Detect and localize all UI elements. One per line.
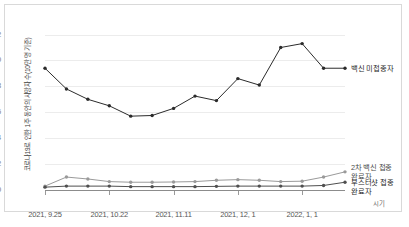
- data-point: [86, 184, 89, 187]
- data-point: [300, 184, 303, 187]
- data-point: [279, 180, 282, 183]
- x-axis-tick-label: 2021, 9.25: [28, 211, 61, 219]
- data-point: [43, 185, 46, 188]
- y-axis-tick-label: 10: [0, 56, 1, 64]
- data-point: [322, 67, 325, 70]
- y-axis-tick-label: 6: [0, 108, 1, 116]
- data-point: [150, 185, 153, 188]
- data-point: [43, 67, 46, 70]
- series-line: [45, 44, 345, 117]
- annotation-booster: 부스터샷 접종 완료자: [351, 178, 393, 196]
- x-axis-tick-mark: [174, 191, 175, 195]
- data-point: [236, 178, 239, 181]
- data-point: [65, 184, 68, 187]
- y-axis-tick-label: 0: [0, 186, 1, 194]
- y-axis-tick-label: 12: [0, 31, 1, 39]
- x-axis-tick-label: 2021, 12, 1: [220, 211, 255, 219]
- data-point: [65, 87, 68, 90]
- annotation-second-dose-line1: 2차 백신 접종: [351, 163, 392, 172]
- data-point: [172, 185, 175, 188]
- y-axis-title: 코로나19로 인한 1주 동안의 사망자 수(10만 명 기준): [22, 19, 33, 190]
- data-point: [236, 184, 239, 187]
- data-point: [65, 175, 68, 178]
- y-axis-tick-label: 4: [0, 134, 1, 142]
- data-point: [108, 180, 111, 183]
- data-point: [86, 98, 89, 101]
- x-axis-tick-mark: [109, 191, 110, 195]
- x-axis-line: [45, 190, 345, 191]
- y-axis-tick-label: 8: [0, 82, 1, 90]
- data-point: [150, 114, 153, 117]
- data-point: [279, 184, 282, 187]
- x-axis-tick-label: 2022, 1, 1: [286, 211, 317, 219]
- data-point: [236, 77, 239, 80]
- data-point: [300, 42, 303, 45]
- data-point: [172, 107, 175, 110]
- data-point: [193, 94, 196, 97]
- data-point: [129, 185, 132, 188]
- data-point: [129, 114, 132, 117]
- series-lines: [45, 19, 345, 190]
- data-point: [322, 184, 325, 187]
- x-axis-tick-mark: [238, 191, 239, 195]
- data-point: [215, 185, 218, 188]
- data-point: [108, 104, 111, 107]
- data-point: [343, 181, 346, 184]
- y-axis-tick-label: 2: [0, 160, 1, 168]
- data-point: [193, 180, 196, 183]
- chart-screenshot: 코로나19로 인한 1주 동안의 사망자 수(10만 명 기준) 시기 0246…: [0, 0, 409, 227]
- x-axis-tick-label: 2021, 11.11: [155, 211, 191, 219]
- data-point: [322, 175, 325, 178]
- series-line: [45, 172, 345, 186]
- data-point: [343, 170, 346, 173]
- data-point: [150, 181, 153, 184]
- x-axis-tick-label: 2021, 10.22: [91, 211, 128, 219]
- data-point: [129, 181, 132, 184]
- data-point: [215, 99, 218, 102]
- annotation-booster-line1: 부스터샷 접종: [351, 178, 393, 187]
- annotation-booster-line2: 완료자: [351, 187, 393, 196]
- data-point: [86, 177, 89, 180]
- data-point: [215, 179, 218, 182]
- x-axis-tick-mark: [45, 191, 46, 195]
- plot-area: 024681012 2021, 9.252021, 10.222021, 11.…: [45, 19, 345, 190]
- data-point: [279, 46, 282, 49]
- x-axis-title: 시기: [373, 201, 385, 207]
- data-point: [108, 184, 111, 187]
- data-point: [172, 180, 175, 183]
- annotation-unvaccinated-label: 백신 미접종자: [351, 64, 393, 73]
- data-point: [258, 184, 261, 187]
- data-point: [258, 179, 261, 182]
- x-axis-tick-mark: [302, 191, 303, 195]
- data-point: [300, 179, 303, 182]
- data-point: [258, 83, 261, 86]
- data-point: [343, 67, 346, 70]
- data-point: [193, 185, 196, 188]
- annotation-unvaccinated: 백신 미접종자: [351, 64, 393, 73]
- chart-card: 코로나19로 인한 1주 동안의 사망자 수(10만 명 기준) 시기 0246…: [4, 4, 402, 212]
